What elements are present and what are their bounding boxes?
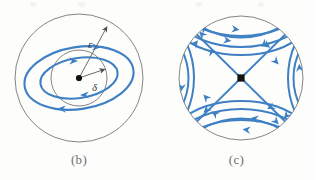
streamline-lower-1 <box>170 120 312 150</box>
panel-b-caption: (b) <box>0 152 158 168</box>
panel-c: (c) <box>158 0 315 180</box>
panel-c-caption: (c) <box>158 152 315 168</box>
streamline-left-2 <box>160 26 189 130</box>
streamline-upper-1 <box>170 6 312 36</box>
panel-b-diagram: ε δ <box>0 0 158 152</box>
saddle-point <box>237 74 244 81</box>
center-point <box>76 75 82 81</box>
streamline-lower-2 <box>168 119 314 153</box>
delta-label: δ <box>92 81 98 93</box>
panel-b: ε δ (b) <box>0 0 158 180</box>
streamline-lower-3 <box>174 109 308 136</box>
figure-canvas: ε δ (b) <box>0 0 315 180</box>
panel-c-diagram <box>158 0 315 152</box>
epsilon-label: ε <box>88 38 93 50</box>
streamline-right-1 <box>288 14 315 142</box>
streamline-right-2 <box>294 26 316 130</box>
streamline-upper-2 <box>168 0 314 38</box>
